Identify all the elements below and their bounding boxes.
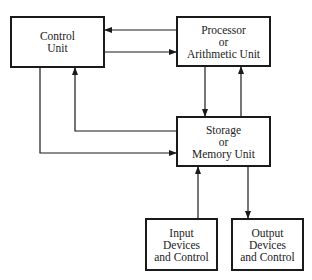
output-label-line-1: Output [252,227,284,239]
arrow-control-to-storage [40,68,176,153]
processor-label-line-2: or [219,36,229,48]
processor-box: Processor or Arithmetic Unit [176,16,271,67]
processor-label-line-1: Processor [201,24,246,36]
input-devices-box: Input Devices and Control [145,218,218,271]
control-unit-label-line-1: Control [40,30,75,42]
storage-label-line-1: Storage [206,124,241,136]
input-label-line-1: Input [169,227,193,239]
storage-label-line-2: or [219,136,229,148]
input-label-line-3: and Control [154,251,209,263]
arrow-storage-to-control [75,68,176,131]
control-unit-box: Control Unit [10,16,105,68]
output-label-line-2: Devices [249,239,286,251]
storage-label-line-3: Memory Unit [192,148,255,160]
processor-label-line-3: Arithmetic Unit [187,48,260,60]
input-label-line-2: Devices [163,239,200,251]
control-unit-label-line-2: Unit [47,42,67,54]
output-label-line-3: and Control [240,251,295,263]
storage-box: Storage or Memory Unit [176,116,271,167]
output-devices-box: Output Devices and Control [231,218,304,271]
